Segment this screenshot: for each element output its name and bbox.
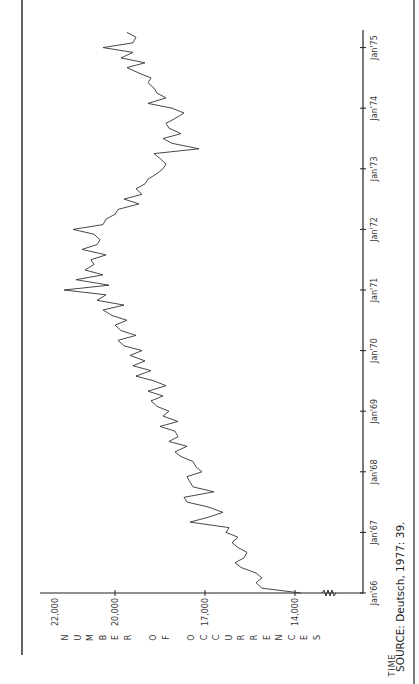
y-axis-title-letter: O — [187, 633, 196, 640]
y-axis-title-letter: U — [74, 634, 83, 641]
value-tick-label: 14,000 — [291, 598, 300, 626]
time-tick-label: Jan'74 — [370, 96, 379, 122]
time-tick-label: Jan'73 — [370, 156, 379, 182]
value-tick-label: 20,000 — [111, 598, 120, 626]
value-tick-label: 22,000 — [51, 598, 60, 626]
y-axis-title-letter: C — [288, 634, 297, 641]
y-axis-title-letter: O — [149, 633, 158, 640]
y-axis-title-letter: R — [124, 634, 133, 641]
occurrences-line — [64, 32, 301, 593]
y-axis-title-letter: F — [162, 634, 171, 640]
y-axis-title-letter: B — [99, 634, 108, 641]
time-series-chart: Jan'66Jan'67Jan'68Jan'69Jan'70Jan'71Jan'… — [0, 0, 419, 684]
y-axis-title-letter: C — [200, 634, 209, 641]
y-axis-title-letter: N — [61, 634, 70, 641]
y-axis-title-letter: R — [250, 634, 259, 641]
time-tick-label: Jan'75 — [370, 35, 379, 61]
y-axis-title-letter: R — [237, 634, 246, 641]
y-axis-title-letter: E — [111, 634, 120, 640]
source-note: SOURCE: Deutsch, 1977: 39. — [394, 522, 406, 672]
y-axis-title: NUMBER OF OCCURRENCES — [61, 633, 322, 641]
y-axis-title-letter: N — [275, 634, 284, 641]
y-axis-title-letter: E — [263, 634, 272, 640]
y-axis-title-letter: E — [300, 634, 309, 640]
y-axis-title-letter: U — [225, 634, 234, 641]
y-axis-title-letter: M — [86, 633, 95, 641]
y-axis-title-letter: C — [212, 634, 221, 641]
time-tick-label: Jan'67 — [370, 520, 379, 546]
time-tick-label: Jan'68 — [370, 459, 379, 485]
time-tick-label: Jan'66 — [370, 581, 379, 607]
time-tick-label: Jan'71 — [370, 278, 379, 304]
value-tick-label: 17,000 — [201, 598, 210, 626]
value-ticks: 14,00017,00020,00022,000 — [51, 590, 300, 626]
time-tick-label: Jan'72 — [370, 217, 379, 243]
y-axis-title-letter: S — [313, 634, 322, 640]
time-tick-label: Jan'69 — [370, 399, 379, 425]
time-tick-label: Jan'70 — [370, 338, 379, 364]
